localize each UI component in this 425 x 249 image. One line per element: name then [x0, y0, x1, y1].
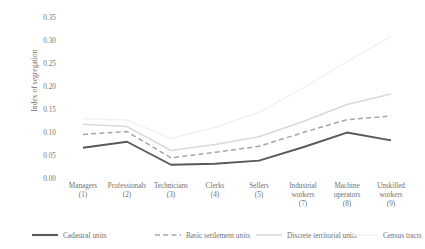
legend-label: Basic settlement units [186, 231, 250, 240]
legend-line-swatch [32, 231, 58, 239]
x-axis-tick-word: workers [363, 191, 419, 200]
y-axis-tick-label: 0.10 [30, 129, 56, 136]
series-line [83, 133, 391, 165]
chart-legend: Cadastral unitsBasic settlement unitsDis… [0, 228, 425, 246]
x-axis-tick-word: Unskilled [363, 182, 419, 191]
y-axis-tick-label: 0.25 [30, 60, 56, 67]
series-lines [61, 18, 413, 179]
chart-figure: Index of segregation 0.350.300.250.200.1… [0, 0, 425, 249]
legend-line-swatch [352, 231, 378, 239]
legend-label: Census tracts [383, 231, 422, 240]
series-line [83, 36, 391, 138]
y-axis-tick-label: 0.30 [30, 37, 56, 44]
legend-label: Cadastral units [63, 231, 107, 240]
x-axis-tick-number: (9) [363, 200, 419, 209]
y-axis-tick-labels: 0.350.300.250.200.150.100.050.00 [28, 0, 56, 249]
legend-line-swatch [155, 231, 181, 239]
legend-item[interactable]: Discrete territorial units [256, 228, 357, 242]
legend-label: Discrete territorial units [287, 231, 357, 240]
legend-item[interactable]: Basic settlement units [155, 228, 250, 242]
plot-area [61, 18, 413, 179]
y-axis-tick-label: 0.15 [30, 106, 56, 113]
y-axis-tick-label: 0.00 [30, 175, 56, 182]
y-axis-tick-label: 0.20 [30, 83, 56, 90]
legend-item[interactable]: Cadastral units [32, 228, 107, 242]
legend-line-swatch [256, 231, 282, 239]
x-axis-tick-labels: Managers(1)Professionals(2)Technicians(3… [61, 182, 413, 222]
y-axis-tick-label: 0.05 [30, 152, 56, 159]
y-axis-tick-label: 0.35 [30, 14, 56, 21]
x-axis-tick-label: Unskilledworkers(9) [363, 182, 419, 210]
legend-item[interactable]: Census tracts [352, 228, 422, 242]
series-line [83, 116, 391, 158]
